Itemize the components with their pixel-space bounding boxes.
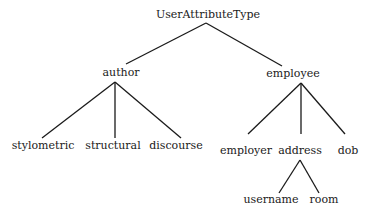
node-discourse: discourse: [149, 139, 203, 152]
edge-root-employee: [206, 23, 282, 66]
edge-author-stylometric: [42, 82, 115, 138]
tree-edges: [0, 0, 370, 216]
node-room: room: [310, 193, 339, 206]
node-username: username: [243, 193, 298, 206]
edge-author-discourse: [115, 82, 181, 138]
edge-employee-employer: [248, 83, 301, 134]
node-structural: structural: [85, 139, 140, 152]
edge-address-room: [300, 160, 319, 193]
node-dob: dob: [338, 144, 359, 157]
node-employer: employer: [220, 144, 272, 157]
node-stylometric: stylometric: [12, 139, 75, 152]
edge-root-author: [126, 23, 206, 64]
edge-employee-dob: [301, 83, 345, 134]
node-address: address: [278, 144, 322, 157]
edge-address-username: [279, 160, 300, 193]
node-employee: employee: [266, 67, 319, 80]
attribute-type-tree: UserAttributeType author employee stylom…: [0, 0, 370, 216]
node-author: author: [102, 66, 139, 79]
node-user-attribute-type: UserAttributeType: [156, 8, 260, 21]
